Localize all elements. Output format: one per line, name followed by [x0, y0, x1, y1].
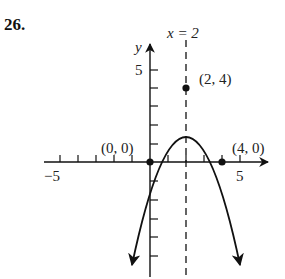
origin-label: (0, 0): [101, 140, 134, 157]
point-origin: [146, 158, 153, 165]
point-vertex: [182, 84, 189, 91]
x-axis: [44, 155, 268, 162]
y-tick-label-5: 5: [135, 62, 143, 78]
point-root: [218, 158, 225, 165]
root-label: (4, 0): [232, 140, 265, 157]
vertex-label: (2, 4): [199, 71, 232, 88]
parabola-graph: y 5 −5 5 x = 2 (2, 4) (0, 0) (4, 0): [0, 0, 285, 279]
x-tick-label-5: 5: [236, 168, 244, 184]
y-axis-label: y: [133, 39, 142, 55]
x-tick-label-neg5: −5: [44, 168, 60, 184]
symmetry-label: x = 2: [166, 25, 199, 41]
